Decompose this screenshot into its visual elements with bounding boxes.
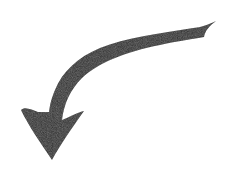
arrow-canvas (0, 0, 225, 174)
arrow-shape (21, 21, 216, 160)
curved-arrow-down-icon (0, 0, 225, 174)
